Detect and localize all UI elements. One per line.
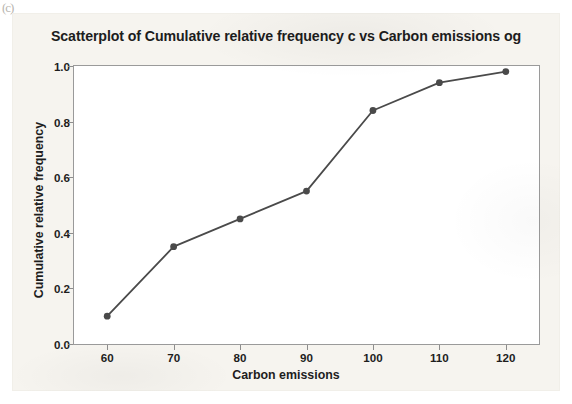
y-tick-mark	[68, 66, 73, 67]
chart-page: (c) Scatterplot of Cumulative relative f…	[0, 0, 572, 404]
x-tick-mark	[506, 345, 507, 350]
y-tick-label: 0.8	[36, 115, 70, 128]
plot-area: 60, 0.170, 0.3580, 0.4590, 0.55100, 0.84…	[73, 65, 540, 345]
x-tick-label: 70	[154, 351, 194, 364]
data-point-marker: 100, 0.84	[370, 107, 377, 114]
data-point-marker: 90, 0.55	[303, 188, 310, 195]
x-tick-label: 90	[287, 351, 327, 364]
y-axis-tick-labels: 0.00.20.40.60.81.0	[30, 65, 70, 345]
data-point-marker: 110, 0.94	[436, 79, 443, 86]
x-tick-mark	[373, 345, 374, 350]
x-tick-mark	[307, 345, 308, 350]
data-point-marker: 60, 0.1	[104, 313, 111, 320]
y-tick-label: 0.2	[36, 282, 70, 295]
x-tick-label: 100	[353, 351, 393, 364]
x-tick-label: 80	[220, 351, 260, 364]
x-tick-mark	[174, 345, 175, 350]
data-point-marker: 120, 0.98	[502, 68, 509, 75]
x-axis-tick-labels: 60708090100110120	[73, 351, 540, 367]
chart-title: Scatterplot of Cumulative relative frequ…	[12, 28, 560, 44]
y-tick-mark	[68, 122, 73, 123]
y-tick-label: 0.4	[36, 226, 70, 239]
y-tick-mark	[68, 233, 73, 234]
chart-figure: Scatterplot of Cumulative relative frequ…	[12, 13, 560, 391]
data-point-marker: 70, 0.35	[170, 243, 177, 250]
x-axis-label: Carbon emissions	[12, 368, 560, 382]
y-tick-label: 1.0	[36, 60, 70, 73]
x-tick-label: 120	[486, 351, 526, 364]
data-point-marker: 80, 0.45	[237, 216, 244, 223]
x-tick-label: 60	[87, 351, 127, 364]
x-tick-label: 110	[419, 351, 459, 364]
y-tick-mark	[68, 177, 73, 178]
y-tick-label: 0.6	[36, 171, 70, 184]
plot-svg: 60, 0.170, 0.3580, 0.4590, 0.55100, 0.84…	[74, 66, 539, 344]
x-tick-mark	[107, 345, 108, 350]
y-tick-mark	[68, 344, 73, 345]
x-tick-mark	[439, 345, 440, 350]
y-tick-mark	[68, 288, 73, 289]
y-tick-label: 0.0	[36, 338, 70, 351]
x-tick-mark	[240, 345, 241, 350]
